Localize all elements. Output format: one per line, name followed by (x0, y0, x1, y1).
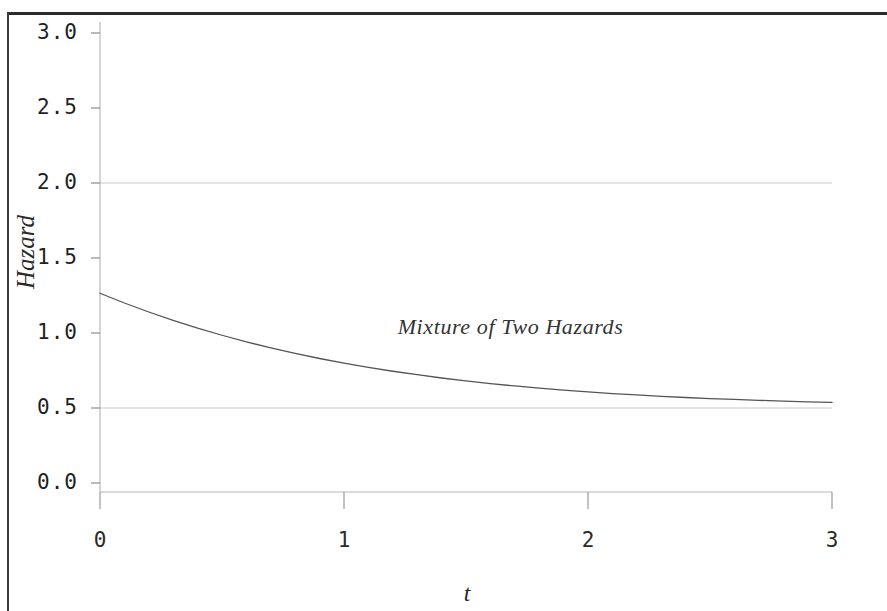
y-tick-label: 3.0 (8, 20, 78, 44)
x-axis-label: t (437, 580, 497, 607)
x-tick-marks-group (100, 492, 832, 509)
data-series-group (100, 293, 832, 402)
x-tick-label: 1 (324, 528, 364, 552)
y-axis-label: Hazard (12, 182, 40, 322)
x-tick-label: 3 (812, 528, 852, 552)
series-line (100, 293, 832, 402)
curve-annotation-label: Mixture of Two Hazards (398, 314, 624, 340)
y-tick-label: 1.0 (8, 320, 78, 344)
y-tick-marks-group (91, 33, 100, 483)
y-tick-label: 2.5 (8, 95, 78, 119)
chart-page: 0.00.51.01.52.02.53.0 0123 Hazard t Mixt… (0, 0, 887, 611)
y-tick-label: 0.5 (8, 395, 78, 419)
x-tick-label: 0 (80, 528, 120, 552)
gridlines-group (100, 183, 832, 408)
axes-group (100, 22, 832, 492)
y-tick-label: 0.0 (8, 470, 78, 494)
hazard-plot (0, 0, 887, 611)
x-tick-label: 2 (568, 528, 608, 552)
